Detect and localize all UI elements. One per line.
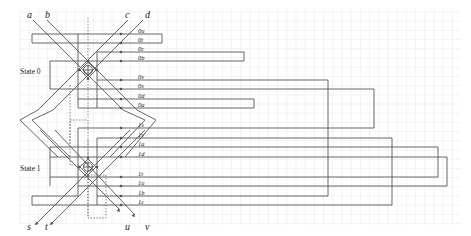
state-diagram: abcdstuv0u0t0c0b0v0s0d0a1s1v1a1d1t1u1b1c… — [0, 0, 471, 236]
port-label-0a: 0a — [138, 101, 145, 108]
output-label-t: t — [45, 221, 48, 232]
state-0-label: State 0 — [20, 67, 41, 76]
port-label-0s: 0s — [138, 82, 144, 89]
input-label-a: a — [27, 9, 32, 20]
port-label-1v: 1v — [138, 131, 144, 138]
output-label-s: s — [27, 221, 31, 232]
output-label-u: u — [125, 221, 130, 232]
port-label-1s: 1s — [138, 121, 144, 128]
input-label-d: d — [145, 9, 151, 20]
port-label-0u: 0u — [138, 27, 145, 34]
port-label-0t: 0t — [138, 36, 143, 43]
port-label-0v: 0v — [138, 73, 144, 80]
background-grid — [20, 10, 460, 225]
output-label-v: v — [145, 221, 150, 232]
labels: abcdstuv0u0t0c0b0v0s0d0a1s1v1a1d1t1u1b1c… — [20, 9, 151, 232]
port-label-1b: 1b — [138, 189, 145, 196]
input-label-c: c — [125, 9, 130, 20]
port-label-1c: 1c — [138, 198, 144, 205]
port-label-0c: 0c — [138, 45, 144, 52]
port-label-1a: 1a — [138, 140, 145, 147]
port-label-1u: 1u — [138, 179, 145, 186]
port-label-1d: 1d — [138, 150, 145, 157]
port-label-0b: 0b — [138, 54, 145, 61]
port-label-0d: 0d — [138, 92, 145, 99]
diagram-canvas: abcdstuv0u0t0c0b0v0s0d0a1s1v1a1d1t1u1b1c… — [0, 0, 471, 236]
input-label-b: b — [45, 9, 50, 20]
state-1-label: State 1 — [20, 164, 41, 173]
port-label-1t: 1t — [138, 170, 143, 177]
